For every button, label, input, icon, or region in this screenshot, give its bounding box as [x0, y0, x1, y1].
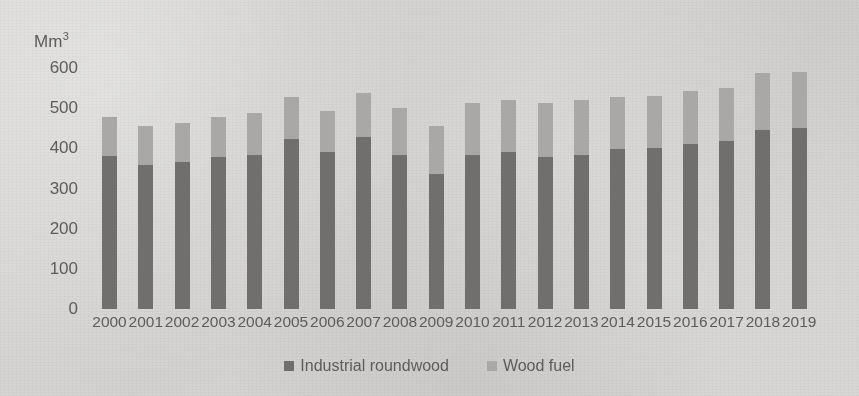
- bar-segment-industrial-roundwood[interactable]: [538, 157, 553, 309]
- bar-segment-wood-fuel[interactable]: [429, 126, 444, 174]
- x-axis-tick-label: 2015: [637, 313, 671, 331]
- x-axis-tick-label: 2016: [673, 313, 707, 331]
- bar-stack[interactable]: [574, 100, 589, 309]
- x-axis-tick-label: 2006: [310, 313, 344, 331]
- x-axis-tick-label: 2013: [564, 313, 598, 331]
- bar-segment-wood-fuel[interactable]: [175, 123, 190, 163]
- bar-segment-wood-fuel[interactable]: [320, 111, 335, 152]
- bar-segment-industrial-roundwood[interactable]: [247, 155, 262, 309]
- bar-segment-wood-fuel[interactable]: [719, 88, 734, 141]
- x-axis-tick-label: 2018: [746, 313, 780, 331]
- x-axis-tick-label: 2004: [237, 313, 271, 331]
- bar-stack[interactable]: [211, 117, 226, 309]
- x-axis-tick-label: 2007: [346, 313, 380, 331]
- x-axis-tick-label: 2001: [129, 313, 163, 331]
- x-axis-tick-label: 2003: [201, 313, 235, 331]
- bar-segment-wood-fuel[interactable]: [538, 103, 553, 157]
- legend-swatch-icon: [284, 361, 294, 371]
- chart-page: Mm3 6005004003002001000 2000200120022003…: [0, 0, 859, 396]
- bar-segment-industrial-roundwood[interactable]: [284, 139, 299, 309]
- bar-segment-industrial-roundwood[interactable]: [356, 137, 371, 309]
- bar-segment-industrial-roundwood[interactable]: [320, 152, 335, 309]
- bar-segment-industrial-roundwood[interactable]: [138, 165, 153, 309]
- bar-segment-wood-fuel[interactable]: [138, 126, 153, 165]
- bar-stack[interactable]: [755, 73, 770, 309]
- bar-segment-industrial-roundwood[interactable]: [465, 155, 480, 309]
- chart-legend: Industrial roundwoodWood fuel: [0, 357, 859, 375]
- bar-segment-wood-fuel[interactable]: [284, 97, 299, 139]
- bar-stack[interactable]: [683, 91, 698, 309]
- bar-stack[interactable]: [647, 96, 662, 309]
- bar-stack[interactable]: [719, 88, 734, 309]
- legend-label: Wood fuel: [503, 357, 575, 375]
- bars-container: 2000200120022003200420052006200720082009…: [0, 0, 859, 396]
- bar-stack[interactable]: [284, 97, 299, 309]
- bar-segment-wood-fuel[interactable]: [465, 103, 480, 155]
- x-axis-tick-label: 2000: [92, 313, 126, 331]
- bar-segment-wood-fuel[interactable]: [392, 108, 407, 155]
- x-axis-tick-label: 2019: [782, 313, 816, 331]
- x-axis-tick-label: 2010: [455, 313, 489, 331]
- bar-segment-wood-fuel[interactable]: [211, 117, 226, 157]
- bar-stack[interactable]: [102, 117, 117, 309]
- bar-stack[interactable]: [610, 97, 625, 309]
- bar-stack[interactable]: [320, 111, 335, 309]
- bar-segment-wood-fuel[interactable]: [610, 97, 625, 149]
- legend-item[interactable]: Wood fuel: [487, 357, 575, 375]
- bar-segment-wood-fuel[interactable]: [755, 73, 770, 130]
- bar-segment-industrial-roundwood[interactable]: [792, 128, 807, 309]
- bar-segment-wood-fuel[interactable]: [102, 117, 117, 156]
- bar-stack[interactable]: [356, 93, 371, 309]
- bar-stack[interactable]: [138, 126, 153, 309]
- bar-stack[interactable]: [538, 103, 553, 309]
- bar-stack[interactable]: [247, 113, 262, 309]
- bar-segment-wood-fuel[interactable]: [792, 72, 807, 129]
- legend-label: Industrial roundwood: [300, 357, 449, 375]
- x-axis-tick-label: 2011: [492, 313, 525, 331]
- legend-swatch-icon: [487, 361, 497, 371]
- bar-segment-industrial-roundwood[interactable]: [683, 144, 698, 309]
- bar-stack[interactable]: [429, 126, 444, 309]
- x-axis-tick-label: 2005: [274, 313, 308, 331]
- bar-stack[interactable]: [392, 108, 407, 309]
- bar-segment-industrial-roundwood[interactable]: [501, 152, 516, 309]
- bar-stack[interactable]: [501, 100, 516, 309]
- chart-plot-area: Mm3 6005004003002001000 2000200120022003…: [0, 0, 859, 396]
- x-axis-tick-label: 2008: [383, 313, 417, 331]
- bar-segment-wood-fuel[interactable]: [247, 113, 262, 155]
- x-axis-tick-label: 2002: [165, 313, 199, 331]
- bar-segment-industrial-roundwood[interactable]: [647, 148, 662, 309]
- bar-segment-wood-fuel[interactable]: [356, 93, 371, 137]
- bar-segment-industrial-roundwood[interactable]: [429, 174, 444, 309]
- bar-stack[interactable]: [175, 123, 190, 309]
- bar-segment-industrial-roundwood[interactable]: [175, 162, 190, 309]
- bar-segment-industrial-roundwood[interactable]: [392, 155, 407, 309]
- legend-item[interactable]: Industrial roundwood: [284, 357, 449, 375]
- bar-segment-industrial-roundwood[interactable]: [211, 157, 226, 309]
- x-axis-tick-label: 2017: [709, 313, 743, 331]
- bar-segment-industrial-roundwood[interactable]: [610, 149, 625, 309]
- x-axis-tick-label: 2009: [419, 313, 453, 331]
- bar-stack[interactable]: [465, 103, 480, 309]
- x-axis-tick-label: 2014: [600, 313, 634, 331]
- bar-segment-wood-fuel[interactable]: [574, 100, 589, 155]
- bar-segment-industrial-roundwood[interactable]: [719, 141, 734, 309]
- x-axis-tick-label: 2012: [528, 313, 562, 331]
- bar-segment-wood-fuel[interactable]: [647, 96, 662, 148]
- bar-segment-wood-fuel[interactable]: [501, 100, 516, 152]
- bar-segment-wood-fuel[interactable]: [683, 91, 698, 144]
- bar-stack[interactable]: [792, 72, 807, 309]
- bar-segment-industrial-roundwood[interactable]: [102, 156, 117, 309]
- bar-segment-industrial-roundwood[interactable]: [755, 130, 770, 309]
- bar-segment-industrial-roundwood[interactable]: [574, 155, 589, 309]
